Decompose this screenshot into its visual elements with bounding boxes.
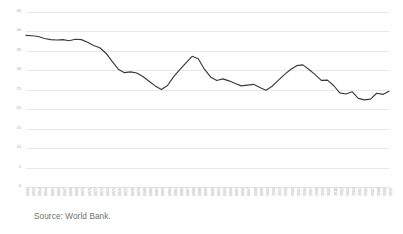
x-axis-tick-label: 1965 bbox=[51, 188, 55, 196]
x-axis-tick-label: 1964 bbox=[44, 188, 48, 196]
x-axis-tick-label: 1998 bbox=[254, 188, 258, 196]
y-axis-tick-label: 10 bbox=[17, 146, 21, 150]
x-axis-tick-label: 1995 bbox=[235, 188, 239, 196]
x-axis-tick-label: 1971 bbox=[88, 188, 92, 196]
source-note: Source: World Bank. bbox=[34, 212, 111, 222]
x-axis-tick-label: 1991 bbox=[211, 188, 215, 196]
x-axis-tick-label: 1981 bbox=[149, 188, 153, 196]
x-axis-tick-label: 2013 bbox=[346, 188, 350, 196]
x-axis-tick-label: 1976 bbox=[118, 188, 122, 196]
x-axis-tick-label: 2011 bbox=[334, 188, 338, 196]
x-axis-tick-label: 2017 bbox=[371, 188, 375, 196]
y-axis-tick-label: 45 bbox=[17, 10, 21, 14]
x-axis-tick-label: 2003 bbox=[284, 188, 288, 196]
x-axis-tick-label: 1968 bbox=[69, 188, 73, 196]
x-axis-tick-label: 2002 bbox=[278, 188, 282, 196]
y-axis-tick-label: 25 bbox=[17, 88, 21, 92]
x-axis-tick-label: 2004 bbox=[291, 188, 295, 196]
x-axis-tick-label: 1990 bbox=[204, 188, 208, 196]
x-axis-tick-label: 2014 bbox=[352, 188, 356, 196]
x-axis-tick-label: 1969 bbox=[75, 188, 79, 196]
x-axis-tick-label: 1987 bbox=[186, 188, 190, 196]
x-axis-tick-label: 1963 bbox=[38, 188, 42, 196]
x-axis-tick-label: 1979 bbox=[137, 188, 141, 196]
x-axis-tick-label: 1962 bbox=[32, 188, 36, 196]
x-axis-tick-label: 2010 bbox=[327, 188, 331, 196]
x-axis-tick-label: 1980 bbox=[143, 188, 147, 196]
x-axis-tick-label: 2006 bbox=[303, 188, 307, 196]
x-axis-tick-label: 2012 bbox=[340, 188, 344, 196]
x-axis-tick-label: 1986 bbox=[180, 188, 184, 196]
x-axis-tick-label: 1982 bbox=[155, 188, 159, 196]
x-axis-tick-label: 1988 bbox=[192, 188, 196, 196]
x-axis-tick-label: 2000 bbox=[266, 188, 270, 196]
x-axis-tick-label: 1993 bbox=[223, 188, 227, 196]
y-axis-tick-label: 0 bbox=[19, 185, 21, 189]
y-axis-tick-label: 15 bbox=[17, 127, 21, 131]
y-axis-tick-label: 5 bbox=[19, 166, 21, 170]
y-axis-tick-label: 40 bbox=[17, 30, 21, 34]
x-axis-tick-label: 1997 bbox=[247, 188, 251, 196]
x-axis-tick-label: 1983 bbox=[161, 188, 165, 196]
series-line-path bbox=[26, 35, 389, 100]
x-axis-tick-label: 2005 bbox=[297, 188, 301, 196]
y-axis-tick-label: 30 bbox=[17, 69, 21, 73]
x-axis-tick-label: 1977 bbox=[124, 188, 128, 196]
x-axis-tick-label: 1984 bbox=[168, 188, 172, 196]
x-axis-tick-label: 1973 bbox=[100, 188, 104, 196]
x-axis-tick-label: 1975 bbox=[112, 188, 116, 196]
x-axis-tick-label: 2008 bbox=[315, 188, 319, 196]
x-axis-tick-label: 2020 bbox=[389, 188, 393, 196]
x-axis-tick-label: 2016 bbox=[364, 188, 368, 196]
x-axis-tick-label: 1974 bbox=[106, 188, 110, 196]
x-axis-tick-label: 1961 bbox=[26, 188, 30, 196]
y-axis-tick-label: 35 bbox=[17, 49, 21, 53]
x-axis-tick-label: 1970 bbox=[81, 188, 85, 196]
x-axis-tick-label: 1985 bbox=[174, 188, 178, 196]
y-axis-tick-label: 20 bbox=[17, 107, 21, 111]
x-axis-tick-label: 2019 bbox=[383, 188, 387, 196]
x-axis-tick-label: 2015 bbox=[358, 188, 362, 196]
x-axis-tick-label: 1967 bbox=[63, 188, 67, 196]
plot-area bbox=[26, 12, 389, 187]
x-axis-tick-label: 2007 bbox=[309, 188, 313, 196]
x-axis-tick-label: 2001 bbox=[272, 188, 276, 196]
x-axis-tick-label: 1992 bbox=[217, 188, 221, 196]
x-axis-tick-label: 1972 bbox=[94, 188, 98, 196]
x-axis: 1961196219631964196519661967196819691970… bbox=[26, 188, 389, 210]
x-axis-tick-label: 1996 bbox=[241, 188, 245, 196]
x-axis-tick-label: 2009 bbox=[321, 188, 325, 196]
x-axis-tick-label: 1978 bbox=[131, 188, 135, 196]
line-chart: 051015202530354045 196119621963196419651… bbox=[0, 0, 403, 234]
x-axis-tick-label: 1999 bbox=[260, 188, 264, 196]
y-axis: 051015202530354045 bbox=[0, 12, 24, 187]
series-line-svg bbox=[26, 12, 389, 187]
x-axis-tick-label: 1989 bbox=[198, 188, 202, 196]
x-axis-tick-label: 1994 bbox=[229, 188, 233, 196]
x-axis-tick-label: 1966 bbox=[57, 188, 61, 196]
x-axis-tick-label: 2018 bbox=[377, 188, 381, 196]
